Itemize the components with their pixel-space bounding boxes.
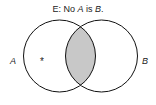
label-b: B — [142, 56, 148, 66]
label-a: A — [10, 56, 16, 66]
asterisk-marker: * — [40, 56, 44, 67]
venn-diagram — [0, 0, 156, 105]
